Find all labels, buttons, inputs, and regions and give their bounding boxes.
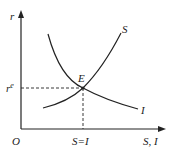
equilibrium-x-label: S=I [72,135,90,147]
saving-curve [43,33,121,108]
x-axis-label: S, I [143,135,159,147]
y-axis-arrow-icon [18,10,24,18]
investment-curve [48,34,138,109]
x-axis-arrow-icon [158,126,166,132]
saving-curve-label: S [122,23,128,35]
equilibrium-point [81,86,84,89]
origin-label: O [12,135,20,147]
equilibrium-r-label: re [6,81,14,94]
saving-investment-diagram: r S, I O S I E re S=I [0,0,172,155]
y-axis-label: r [10,10,15,22]
equilibrium-label: E [77,72,85,84]
investment-curve-label: I [140,104,146,116]
